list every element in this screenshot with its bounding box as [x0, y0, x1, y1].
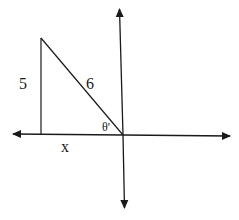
- x-axis-negative: [13, 134, 123, 135]
- x-axis-positive: [123, 135, 230, 136]
- y-axis-positive: [120, 9, 124, 135]
- y-axis-negative: [123, 135, 125, 208]
- hypotenuse-label: 6: [86, 76, 94, 92]
- vertical-side-label: 5: [19, 76, 27, 92]
- right-triangle: [41, 38, 123, 135]
- y-axis: [120, 9, 125, 208]
- reference-angle-label: θ': [102, 121, 110, 133]
- x-axis: [13, 134, 230, 136]
- coordinate-diagram: [0, 0, 239, 220]
- horizontal-side-label: x: [61, 139, 69, 155]
- hypotenuse: [41, 38, 123, 135]
